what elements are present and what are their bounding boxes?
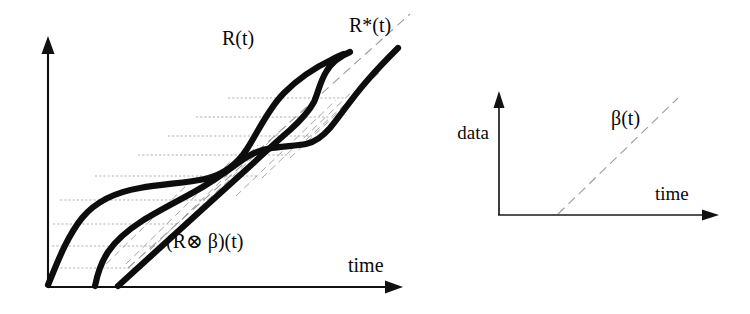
label-convolution: (R⊗ β)(t): [166, 230, 243, 253]
right-y-axis-label: data: [457, 122, 489, 143]
left-x-axis-arrowhead: [385, 281, 403, 294]
right-plot: data β(t) time: [457, 91, 719, 221]
label-R-t: R(t): [222, 27, 254, 50]
left-plot: R(t) R*(t) (R⊗ β)(t) time: [42, 14, 411, 294]
right-x-axis-label: time: [655, 183, 689, 204]
label-R-star-t: R*(t): [349, 14, 391, 37]
label-beta-t: β(t): [611, 107, 640, 130]
figure-root: R(t) R*(t) (R⊗ β)(t) time data β(t) time: [0, 0, 750, 314]
figure-canvas: R(t) R*(t) (R⊗ β)(t) time data β(t) time: [0, 0, 750, 314]
right-x-axis-arrowhead: [702, 210, 719, 221]
left-x-axis-label: time: [348, 254, 384, 276]
right-y-axis-arrowhead: [494, 91, 505, 108]
left-y-axis-arrowhead: [42, 36, 55, 54]
